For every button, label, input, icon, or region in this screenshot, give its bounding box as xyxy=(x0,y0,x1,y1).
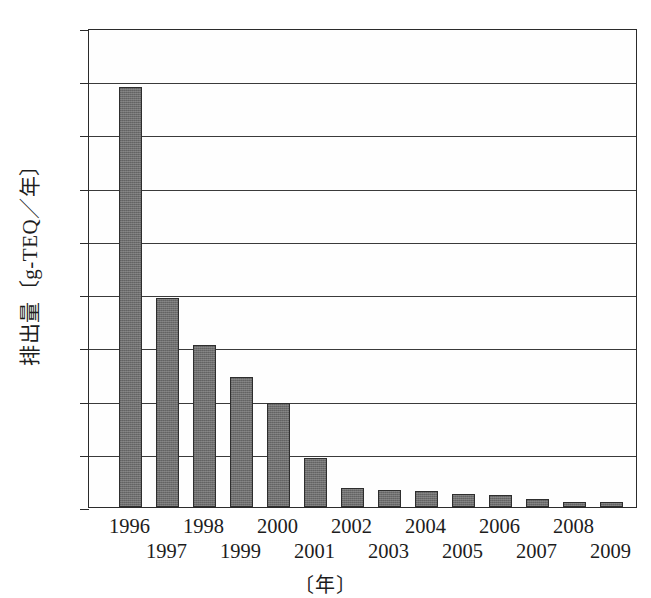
bar xyxy=(489,495,512,507)
y-axis-title: 排出量〔g-TEQ／年〕 xyxy=(13,90,43,430)
x-axis-tick-label: 2000 xyxy=(248,516,308,537)
y-axis-tick xyxy=(80,30,89,31)
bar xyxy=(526,499,549,507)
x-axis-tick-label: 2003 xyxy=(359,541,419,562)
y-axis-tick xyxy=(80,509,89,510)
bar xyxy=(193,345,216,507)
plot-area: 0100020003000400050006000700080009000 xyxy=(88,29,637,508)
bar xyxy=(267,403,290,507)
y-axis-tick xyxy=(80,349,89,350)
gridline xyxy=(89,136,636,137)
y-axis-tick xyxy=(80,296,89,297)
x-axis-tick-label: 2006 xyxy=(470,516,530,537)
x-axis-title: 〔年〕 xyxy=(0,569,651,598)
gridline xyxy=(89,190,636,191)
gridline xyxy=(89,243,636,244)
x-axis-tick-label: 2008 xyxy=(544,516,604,537)
x-axis-tick-label: 2009 xyxy=(581,541,641,562)
bar xyxy=(304,458,327,507)
bar xyxy=(415,491,438,507)
y-axis-tick xyxy=(80,83,89,84)
bar xyxy=(341,488,364,507)
y-axis-tick xyxy=(80,136,89,137)
x-axis-tick-label: 1998 xyxy=(174,516,234,537)
x-axis-tick-label: 1997 xyxy=(137,541,197,562)
bar xyxy=(452,494,475,507)
bar xyxy=(378,490,401,507)
y-axis-tick xyxy=(80,190,89,191)
bar xyxy=(119,87,142,507)
y-axis-tick xyxy=(80,243,89,244)
x-axis-tick-label: 2002 xyxy=(322,516,382,537)
y-axis-tick xyxy=(80,456,89,457)
x-axis-tick-label: 1996 xyxy=(100,516,160,537)
gridline xyxy=(89,83,636,84)
bar xyxy=(600,502,623,507)
bar xyxy=(563,502,586,507)
x-axis-tick-label: 2004 xyxy=(396,516,456,537)
y-axis-tick xyxy=(80,403,89,404)
x-axis-tick-label: 2005 xyxy=(433,541,493,562)
bar xyxy=(230,377,253,507)
x-axis-tick-label: 2007 xyxy=(507,541,567,562)
x-axis-tick-label: 1999 xyxy=(211,541,271,562)
x-axis-tick-label: 2001 xyxy=(285,541,345,562)
bar xyxy=(156,298,179,507)
bar-chart-figure: 排出量〔g-TEQ／年〕 010002000300040005000600070… xyxy=(0,0,651,598)
